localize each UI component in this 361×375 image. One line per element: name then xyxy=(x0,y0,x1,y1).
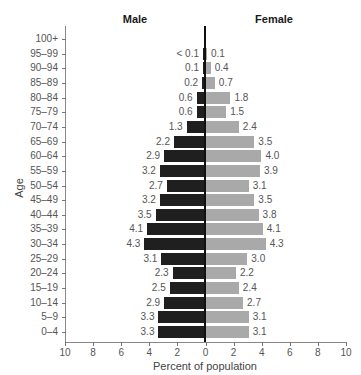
age-group-label: 70–74 xyxy=(8,121,58,133)
x-tick-label: 6 xyxy=(118,347,124,358)
y-tick xyxy=(62,142,66,143)
female-value-label: 1.8 xyxy=(234,92,248,104)
y-tick xyxy=(62,288,66,289)
female-value-label: 0.7 xyxy=(219,77,233,89)
female-value-label: 2.7 xyxy=(247,297,261,309)
male-value-label: 3.1 xyxy=(107,253,157,265)
y-tick xyxy=(62,317,66,318)
female-bar xyxy=(205,121,239,133)
y-tick xyxy=(62,156,66,157)
male-bar xyxy=(174,136,205,148)
y-tick xyxy=(62,127,66,128)
x-axis-title: Percent of population xyxy=(153,360,257,372)
male-value-label: 1.3 xyxy=(133,121,183,133)
x-tick-label: 8 xyxy=(90,347,96,358)
x-tick xyxy=(262,342,263,346)
male-value-label: 2.5 xyxy=(116,282,166,294)
female-bar xyxy=(205,253,247,265)
female-value-label: 3.1 xyxy=(253,326,267,338)
x-tick xyxy=(149,342,150,346)
female-bar xyxy=(205,92,230,104)
y-tick xyxy=(62,83,66,84)
age-group-label: 0–4 xyxy=(8,326,58,338)
male-bar xyxy=(160,165,205,177)
age-group-label: 25–29 xyxy=(8,253,58,265)
male-bar xyxy=(187,121,205,133)
female-value-label: 2.4 xyxy=(243,282,257,294)
male-value-label: 3.3 xyxy=(104,311,154,323)
male-value-label: 2.9 xyxy=(110,297,160,309)
age-group-label: 95–99 xyxy=(8,48,58,60)
male-bar xyxy=(167,180,205,192)
age-group-label: 35–39 xyxy=(8,223,58,235)
female-value-label: 4.3 xyxy=(270,238,284,250)
x-tick xyxy=(206,342,207,346)
x-tick-label: 10 xyxy=(59,347,70,358)
male-value-label: 2.9 xyxy=(110,150,160,162)
x-tick xyxy=(121,342,122,346)
male-value-label: 4.3 xyxy=(90,238,140,250)
female-bar xyxy=(205,194,254,206)
female-value-label: 3.0 xyxy=(251,253,265,265)
female-bar xyxy=(205,209,259,221)
female-value-label: 3.5 xyxy=(258,194,272,206)
female-bar xyxy=(205,136,254,148)
x-tick xyxy=(290,342,291,346)
male-value-label: 2.7 xyxy=(113,180,163,192)
female-value-label: 3.1 xyxy=(253,180,267,192)
x-tick-label: 10 xyxy=(340,347,351,358)
y-tick xyxy=(62,244,66,245)
male-value-label: 4.1 xyxy=(93,223,143,235)
female-bar xyxy=(205,267,236,279)
age-group-label: 45–49 xyxy=(8,194,58,206)
female-value-label: 3.9 xyxy=(264,165,278,177)
female-value-label: 3.8 xyxy=(263,209,277,221)
female-bar xyxy=(205,180,249,192)
female-value-label: 1.5 xyxy=(230,106,244,118)
x-tick xyxy=(234,342,235,346)
age-group-label: 80–84 xyxy=(8,92,58,104)
male-bar xyxy=(164,150,205,162)
male-value-label: 3.2 xyxy=(106,165,156,177)
y-tick xyxy=(62,39,66,40)
male-value-label: 3.2 xyxy=(106,194,156,206)
female-value-label: 0.1 xyxy=(211,48,225,60)
male-bar xyxy=(161,253,205,265)
x-tick-label: 4 xyxy=(147,347,153,358)
female-value-label: 4.1 xyxy=(267,223,281,235)
male-bar xyxy=(156,209,205,221)
y-axis-line xyxy=(65,26,66,343)
male-value-label: 3.5 xyxy=(102,209,152,221)
age-group-label: 50–54 xyxy=(8,180,58,192)
age-group-label: 100+ xyxy=(8,33,58,45)
female-value-label: 0.4 xyxy=(215,62,229,74)
female-value-label: 3.1 xyxy=(253,311,267,323)
x-tick-label: 2 xyxy=(175,347,181,358)
male-value-label: 0.6 xyxy=(143,106,193,118)
male-value-label: 3.3 xyxy=(104,326,154,338)
male-value-label: 2.3 xyxy=(119,267,169,279)
x-tick-label: 6 xyxy=(287,347,293,358)
male-value-label: 0.6 xyxy=(143,92,193,104)
male-bar xyxy=(147,223,205,235)
female-value-label: 2.2 xyxy=(240,267,254,279)
age-group-label: 15–19 xyxy=(8,282,58,294)
female-bar xyxy=(205,311,249,323)
y-tick xyxy=(62,259,66,260)
x-tick-label: 8 xyxy=(315,347,321,358)
x-tick xyxy=(177,342,178,346)
age-group-label: 40–44 xyxy=(8,209,58,221)
age-group-label: 75–79 xyxy=(8,106,58,118)
female-bar xyxy=(205,223,263,235)
y-tick xyxy=(62,200,66,201)
y-tick xyxy=(62,229,66,230)
age-group-label: 5–9 xyxy=(8,311,58,323)
male-bar xyxy=(144,238,205,250)
male-bar xyxy=(164,297,205,309)
female-bar xyxy=(205,297,243,309)
female-value-label: 2.4 xyxy=(243,121,257,133)
male-bar xyxy=(170,282,205,294)
age-group-label: 60–64 xyxy=(8,150,58,162)
female-bar xyxy=(205,326,249,338)
x-tick-label: 4 xyxy=(259,347,265,358)
